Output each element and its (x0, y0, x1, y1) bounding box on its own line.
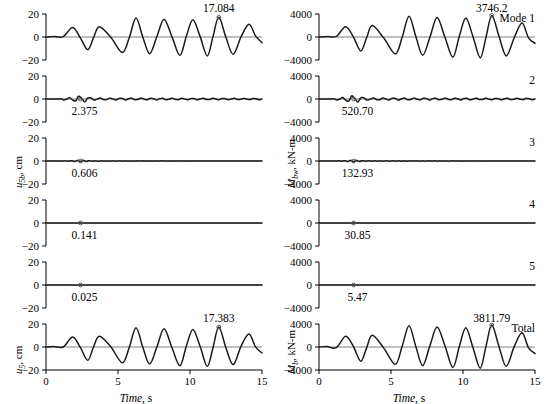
peak-value-label: 3811.79 (473, 312, 510, 324)
x-tick-label: 0 (316, 375, 322, 387)
y-tick-label: 0 (34, 279, 40, 291)
y-tick-label: −20 (22, 302, 40, 314)
x-axis-label: Time, s (273, 392, 545, 404)
peak-value-label: 0.025 (72, 291, 98, 303)
x-tick-label: 15 (530, 375, 542, 387)
plot-canvas-right: 40000−40003746.2Mode 140000−4000520.7024… (273, 0, 545, 402)
x-tick-label: 5 (115, 375, 121, 387)
panel-l5: 200−200.025 (22, 256, 262, 314)
x-tick-label: 10 (458, 375, 470, 387)
y-tick-label: 20 (28, 318, 40, 330)
x-tick-label: 0 (43, 375, 49, 387)
y-tick-label: −20 (22, 116, 40, 128)
y-tick-label: 4000 (290, 70, 313, 82)
x-tick-label: 15 (257, 375, 269, 387)
y-tick-label: −20 (22, 240, 40, 252)
y-tick-label: 20 (28, 194, 40, 206)
chart-column-right: 40000−40003746.2Mode 140000−4000520.7024… (273, 0, 545, 402)
panel-l4: 200−200.141 (22, 194, 262, 252)
panel-l6: 200−2017.383051015 (22, 312, 268, 387)
y-tick-label: 4000 (290, 8, 313, 20)
y-axis-label-left-modal: u5b, cm (12, 156, 27, 188)
panel-r2: 40000−4000520.702 (284, 70, 535, 128)
mode-label: 2 (529, 74, 535, 86)
mode-label: 3 (529, 136, 535, 148)
panel-r4: 40000−400030.854 (284, 194, 535, 252)
mode-label: Total (512, 322, 535, 334)
y-tick-label: 0 (34, 217, 40, 229)
y-tick-label: 0 (307, 155, 313, 167)
y-tick-label: 0 (307, 341, 313, 353)
peak-value-label: 17.084 (203, 2, 235, 14)
y-tick-label: −20 (22, 54, 40, 66)
y-tick-label: −4000 (284, 54, 313, 66)
mode-label: 4 (529, 198, 535, 210)
peak-value-label: 132.93 (342, 167, 374, 179)
peak-value-label: 520.70 (342, 105, 374, 117)
y-tick-label: −4000 (284, 116, 313, 128)
chart-column-left: 200−2017.084200−202.375200−200.606200−20… (0, 0, 272, 402)
panel-r5: 40000−40005.475 (284, 256, 535, 314)
panel-r3: 40000−4000132.933 (284, 132, 535, 190)
panel-l2: 200−202.375 (22, 70, 262, 128)
panel-l3: 200−200.606 (22, 132, 262, 190)
peak-value-label: 0.606 (72, 167, 98, 179)
y-tick-label: 4000 (290, 318, 313, 330)
y-tick-label: 0 (307, 93, 313, 105)
y-tick-label: −4000 (284, 302, 313, 314)
y-axis-label-right-total: Mb, kN-m (285, 330, 300, 374)
y-tick-label: −4000 (284, 240, 313, 252)
peak-value-label: 17.383 (203, 312, 235, 324)
mode-label: 5 (529, 260, 535, 272)
y-tick-label: 0 (34, 155, 40, 167)
y-tick-label: 4000 (290, 194, 313, 206)
y-tick-label: 20 (28, 256, 40, 268)
y-axis-label-left-total: u5, cm (12, 346, 27, 374)
y-tick-label: 0 (34, 93, 40, 105)
x-tick-label: 10 (185, 375, 197, 387)
mode-label: Mode 1 (500, 12, 536, 24)
y-tick-label: 20 (28, 8, 40, 20)
y-tick-label: 0 (307, 217, 313, 229)
x-tick-label: 5 (388, 375, 394, 387)
peak-value-label: 30.85 (345, 229, 371, 241)
y-tick-label: 0 (34, 31, 40, 43)
y-tick-label: 20 (28, 132, 40, 144)
y-tick-label: 0 (307, 279, 313, 291)
peak-value-label: 2.375 (72, 105, 98, 117)
y-tick-label: 4000 (290, 256, 313, 268)
panel-l1: 200−2017.084 (22, 2, 262, 66)
peak-value-label: 5.47 (347, 291, 367, 303)
y-tick-label: 0 (307, 31, 313, 43)
panel-r1: 40000−40003746.2Mode 1 (284, 2, 535, 66)
x-axis-label: Time, s (0, 392, 272, 404)
panel-r6: 40000−40003811.79Total051015 (284, 312, 541, 387)
peak-value-label: 0.141 (72, 229, 98, 241)
y-axis-label-right-modal: Mbw, kN-m (285, 139, 300, 188)
y-tick-label: 0 (34, 341, 40, 353)
plot-canvas-left: 200−2017.084200−202.375200−200.606200−20… (0, 0, 272, 402)
y-tick-label: 20 (28, 70, 40, 82)
